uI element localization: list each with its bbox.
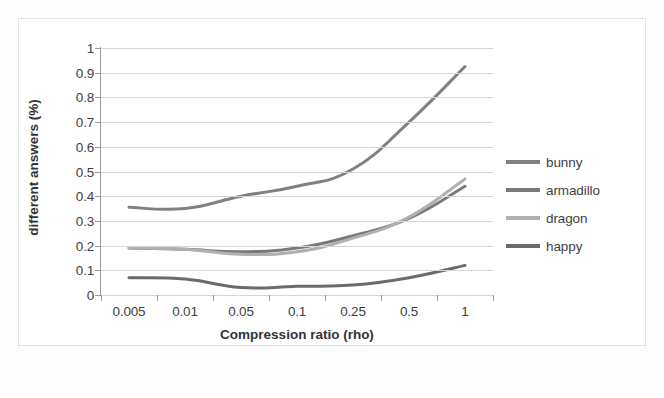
y-axis-tick xyxy=(95,295,101,296)
gridline xyxy=(101,122,493,123)
y-axis-tick-label: 0.2 xyxy=(30,238,94,253)
y-axis-tick xyxy=(95,172,101,173)
plot-area xyxy=(101,48,493,295)
gridline xyxy=(101,48,493,49)
x-axis-tick-label: 0.25 xyxy=(323,304,383,319)
x-axis-tick-label: 0.1 xyxy=(267,304,327,319)
x-axis-tick xyxy=(213,295,214,301)
gridline xyxy=(101,295,493,296)
gridlines xyxy=(101,48,493,295)
legend-item-dragon[interactable]: dragon xyxy=(506,204,626,232)
y-axis-tick-label: 0.8 xyxy=(30,90,94,105)
y-axis-tick-labels: 00.10.20.30.40.50.60.70.80.91 xyxy=(26,0,94,398)
y-axis-tick-label: 0.9 xyxy=(30,65,94,80)
x-axis-tick xyxy=(381,295,382,301)
chart-legend: bunnyarmadillodragonhappy xyxy=(506,148,626,260)
y-axis-tick xyxy=(95,196,101,197)
gridline xyxy=(101,221,493,222)
x-axis-tick xyxy=(269,295,270,301)
y-axis-tick xyxy=(95,221,101,222)
y-axis-tick xyxy=(95,147,101,148)
legend-swatch-icon xyxy=(506,216,540,220)
x-axis-tick-label: 0.5 xyxy=(379,304,439,319)
y-axis-tick xyxy=(95,270,101,271)
x-axis-tick xyxy=(493,295,494,301)
legend-item-bunny[interactable]: bunny xyxy=(506,148,626,176)
legend-swatch-icon xyxy=(506,244,540,248)
legend-label: armadillo xyxy=(546,183,600,198)
legend-label: dragon xyxy=(546,211,587,226)
x-axis-title: Compression ratio (rho) xyxy=(101,327,493,342)
gridline xyxy=(101,147,493,148)
gridline xyxy=(101,97,493,98)
y-axis-tick-label: 0.3 xyxy=(30,213,94,228)
gridline xyxy=(101,246,493,247)
chart-figure: different answers (%) 00.10.20.30.40.50.… xyxy=(0,0,664,398)
x-axis-tick xyxy=(101,295,102,301)
legend-label: happy xyxy=(546,239,582,254)
legend-swatch-icon xyxy=(506,160,540,164)
y-axis-tick-label: 0.7 xyxy=(30,115,94,130)
x-axis-tick-label: 0.05 xyxy=(211,304,271,319)
x-axis-tick xyxy=(157,295,158,301)
y-axis-tick-label: 1 xyxy=(30,41,94,56)
x-axis-tick xyxy=(437,295,438,301)
x-axis-tick-label: 0.005 xyxy=(99,304,159,319)
y-axis-tick xyxy=(95,122,101,123)
y-axis-tick-label: 0.6 xyxy=(30,139,94,154)
y-axis-tick xyxy=(95,73,101,74)
y-axis-tick-label: 0.1 xyxy=(30,263,94,278)
x-axis-tick xyxy=(325,295,326,301)
legend-item-happy[interactable]: happy xyxy=(506,232,626,260)
y-axis-tick-label: 0.4 xyxy=(30,189,94,204)
gridline xyxy=(101,196,493,197)
legend-label: bunny xyxy=(546,155,582,170)
y-axis-tick-label: 0 xyxy=(30,288,94,303)
gridline xyxy=(101,172,493,173)
legend-item-armadillo[interactable]: armadillo xyxy=(506,176,626,204)
y-axis-tick xyxy=(95,97,101,98)
legend-swatch-icon xyxy=(506,188,540,192)
y-axis-tick xyxy=(95,246,101,247)
y-axis-tick-label: 0.5 xyxy=(30,164,94,179)
gridline xyxy=(101,270,493,271)
y-axis-tick xyxy=(95,48,101,49)
x-axis-tick-label: 0.01 xyxy=(155,304,215,319)
x-axis-tick-label: 1 xyxy=(435,304,495,319)
gridline xyxy=(101,73,493,74)
